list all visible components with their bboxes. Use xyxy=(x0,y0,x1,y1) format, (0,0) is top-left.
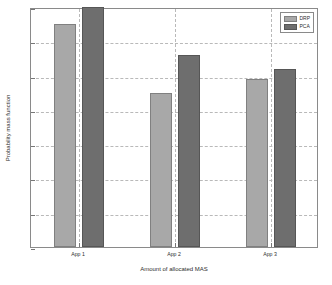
bar-drp-app-3 xyxy=(246,79,268,247)
y-tick-mark xyxy=(31,215,35,216)
x-tick-mark xyxy=(175,243,176,247)
y-tick-mark xyxy=(31,78,35,79)
category-separator xyxy=(175,9,176,247)
y-tick-mark xyxy=(31,43,35,44)
bar-pca-app-1 xyxy=(82,7,104,247)
bar-pca-app-2 xyxy=(178,55,200,247)
category-separator xyxy=(79,9,80,247)
y-tick-mark xyxy=(31,9,35,10)
x-tick-label: App 1 xyxy=(53,252,103,257)
chart-figure: Probability mass function 00.10.20.30.40… xyxy=(0,0,332,285)
legend-swatch-pca-icon xyxy=(284,24,297,30)
x-tick-mark xyxy=(79,243,80,247)
bar-drp-app-1 xyxy=(54,24,76,247)
legend-swatch-drp-icon xyxy=(284,16,297,22)
y-tick-mark xyxy=(31,112,35,113)
chart-legend: DRP PCA xyxy=(280,12,314,33)
plot-area: DRP PCA xyxy=(30,8,318,248)
y-tick-mark xyxy=(31,146,35,147)
x-axis-title: Amount of allocated MAS xyxy=(30,266,318,272)
bar-pca-app-3 xyxy=(274,69,296,247)
x-tick-label: App 3 xyxy=(245,252,295,257)
bar-drp-app-2 xyxy=(150,93,172,247)
y-axis-title: Probability mass function xyxy=(2,8,14,248)
legend-item-drp: DRP xyxy=(284,15,310,22)
legend-label-drp: DRP xyxy=(299,16,310,21)
x-tick-label: App 2 xyxy=(149,252,199,257)
legend-label-pca: PCA xyxy=(299,24,309,29)
y-tick-mark xyxy=(31,249,35,250)
y-tick-mark xyxy=(31,180,35,181)
x-tick-mark xyxy=(271,243,272,247)
legend-item-pca: PCA xyxy=(284,23,310,30)
category-separator xyxy=(271,9,272,247)
